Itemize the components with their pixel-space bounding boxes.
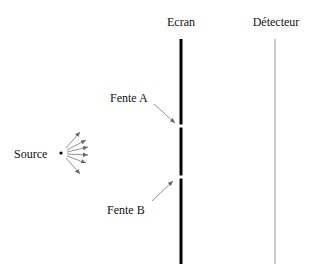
detector-label: Détecteur [253,15,300,29]
emission-arrows [66,132,88,174]
slit-b-pointer [152,181,173,201]
source-point [59,151,62,154]
slit-a-label: Fente A [110,91,148,105]
slit-a-pointer [154,104,175,123]
screen-label: Ecran [167,15,195,29]
source-label: Source [14,147,47,161]
slit-b-label: Fente B [107,203,145,217]
double-slit-diagram: Ecran Détecteur Fente A Fente B Source [0,0,321,276]
